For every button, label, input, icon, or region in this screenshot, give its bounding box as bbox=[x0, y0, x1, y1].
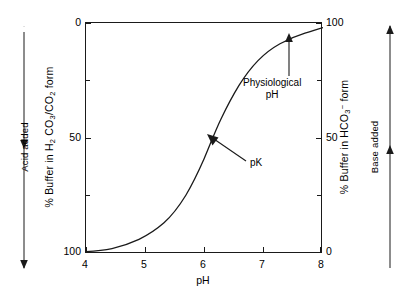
right-axis-title: % Buffer in HCO3− form bbox=[338, 80, 352, 194]
titration-curve-figure: Acid added % Buffer in H2 CO3/CO2 form bbox=[0, 0, 413, 294]
x-tick-label-7: 7 bbox=[259, 258, 265, 270]
base-added-arrow-icon bbox=[382, 24, 398, 270]
left-tick-label-100: 100 bbox=[63, 245, 81, 257]
x-tick-label-5: 5 bbox=[141, 258, 147, 270]
plot-area: pK Physiological pH bbox=[85, 22, 322, 253]
left-axis-title: % Buffer in H2 CO3/CO2 form bbox=[43, 67, 57, 208]
left-tick-label-50: 50 bbox=[69, 131, 81, 143]
physiological-ph-label: Physiological pH bbox=[243, 77, 301, 101]
x-tick-label-6: 6 bbox=[200, 258, 206, 270]
right-axis-title-text: % Buffer in HCO3− form bbox=[338, 80, 350, 194]
base-added-label: Base added bbox=[369, 121, 380, 174]
right-tick-label-100: 100 bbox=[326, 16, 344, 28]
left-axis-title-text: % Buffer in H2 CO3/CO2 form bbox=[43, 67, 55, 208]
pk-label: pK bbox=[250, 157, 262, 169]
x-tick-label-8: 8 bbox=[318, 258, 324, 270]
physiological-ph-arrow-icon bbox=[282, 31, 296, 77]
right-tick-label-50: 50 bbox=[326, 131, 338, 143]
right-tick-label-0: 0 bbox=[326, 245, 332, 257]
physiological-ph-label-line2: pH bbox=[243, 89, 301, 101]
pk-arrow-icon bbox=[204, 131, 252, 165]
left-tick-label-0: 0 bbox=[75, 16, 81, 28]
x-tick-label-4: 4 bbox=[82, 258, 88, 270]
physiological-ph-label-line1: Physiological bbox=[243, 77, 301, 89]
acid-added-label: Acid added bbox=[19, 122, 30, 172]
x-axis-title: pH bbox=[196, 274, 209, 286]
